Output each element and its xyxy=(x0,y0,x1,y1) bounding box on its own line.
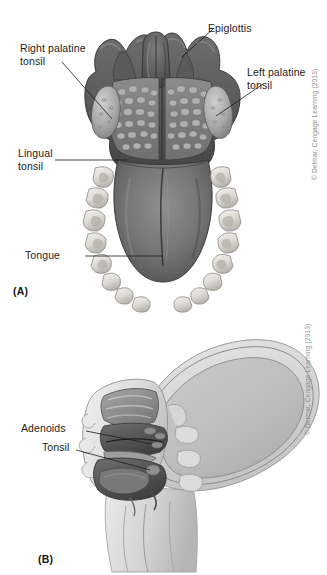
nasal-cavity-turbinates xyxy=(101,389,158,427)
label-left-palatine-tonsil: Left palatine tonsil xyxy=(247,66,306,91)
label-adenoids: Adenoids xyxy=(21,422,66,435)
label-tongue: Tongue xyxy=(25,249,60,262)
label-tonsil: Tonsil xyxy=(42,441,69,454)
panel-b-credit: © Delmar, Cengage Learning (2013) xyxy=(304,324,311,435)
nasopharynx-adenoids xyxy=(100,423,167,456)
neck-soft-tissue xyxy=(105,489,197,572)
lingual-tonsil-shape xyxy=(109,78,214,161)
label-right-palatine-tonsil: Right palatine tonsil xyxy=(20,42,86,67)
panel-b-letter: (B) xyxy=(38,553,53,565)
cervical-vertebrae xyxy=(175,426,202,491)
panel-a-credit: © Delmar, Cengage Learning (2013) xyxy=(311,69,318,180)
label-epiglottis: Epiglottis xyxy=(208,22,252,35)
tongue-body-shape xyxy=(114,160,212,282)
tongue-sagittal xyxy=(99,468,149,494)
panel-b-head-sagittal-section: Adenoids Tonsil (B) © Delmar, Cengage Le… xyxy=(0,310,327,575)
palatine-tonsil-sagittal xyxy=(146,465,160,475)
label-lingual-tonsil: Lingual tonsil xyxy=(18,147,53,172)
anatomy-figure: Epiglottis Right palatine tonsil Left pa… xyxy=(0,0,327,575)
panel-a-tongue-superior-view: Epiglottis Right palatine tonsil Left pa… xyxy=(0,0,327,310)
panel-a-letter: (A) xyxy=(13,285,28,297)
